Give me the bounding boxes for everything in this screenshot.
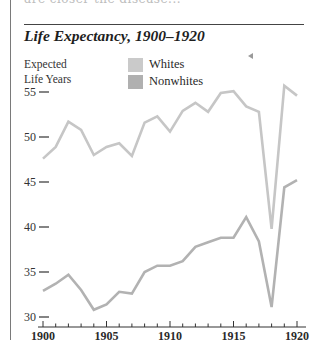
y-tick-label: 40: [24, 220, 36, 234]
series-line-whites: [43, 86, 297, 229]
y-tick-label: 45: [24, 175, 36, 189]
x-tick-label: 1905: [95, 329, 119, 343]
y-tick-label: 55: [24, 85, 36, 99]
x-tick-label: 1910: [158, 329, 182, 343]
line-chart: 303540455055 19001905191019151920: [0, 0, 324, 357]
x-tick-label: 1900: [31, 329, 55, 343]
x-tick-label: 1920: [285, 329, 309, 343]
series-line-nonwhites: [43, 180, 297, 310]
series-lines: [43, 86, 297, 310]
y-tick-label: 35: [24, 265, 36, 279]
y-tick-label: 30: [24, 310, 36, 324]
y-tick-label: 50: [24, 130, 36, 144]
x-axis: 19001905191019151920: [31, 321, 309, 343]
x-tick-label: 1915: [222, 329, 246, 343]
